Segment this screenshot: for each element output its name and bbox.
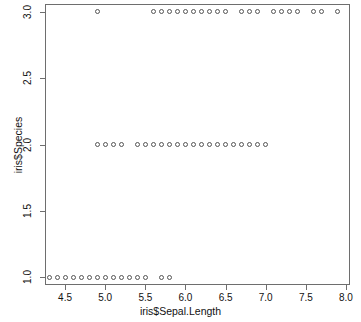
x-tick (226, 285, 227, 290)
x-tick-label: 4.5 (58, 292, 72, 303)
x-tick-label: 6.0 (179, 292, 193, 303)
y-tick-label: 1.0 (22, 266, 33, 288)
y-tick-label: 1.5 (22, 200, 33, 222)
x-tick (306, 285, 307, 290)
x-tick (346, 285, 347, 290)
r-scatter-plot: 4.55.05.56.06.57.07.58.0 1.01.52.02.53.0… (0, 0, 361, 322)
x-tick (105, 285, 106, 290)
plot-frame (45, 4, 350, 285)
y-tick-label: 3.0 (22, 1, 33, 23)
y-tick (40, 145, 45, 146)
x-tick (65, 285, 66, 290)
x-axis-label: iris$Sepal.Length (0, 305, 361, 317)
x-tick-label: 7.0 (259, 292, 273, 303)
y-tick (40, 211, 45, 212)
y-tick (40, 277, 45, 278)
x-tick (266, 285, 267, 290)
y-tick (40, 12, 45, 13)
x-tick (145, 285, 146, 290)
x-tick-label: 8.0 (339, 292, 353, 303)
x-tick-label: 6.5 (219, 292, 233, 303)
x-tick-label: 7.5 (299, 292, 313, 303)
y-tick (40, 78, 45, 79)
x-tick-label: 5.5 (138, 292, 152, 303)
x-tick-label: 5.0 (98, 292, 112, 303)
y-axis-label: iris$Species (12, 95, 24, 195)
y-tick-label: 2.5 (22, 67, 33, 89)
x-tick (185, 285, 186, 290)
